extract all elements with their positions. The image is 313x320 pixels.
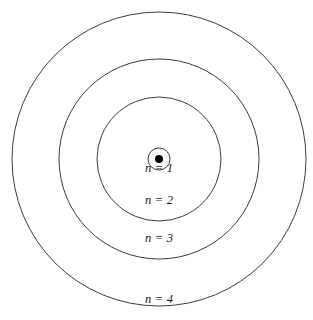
shell-label-n2: n = 2 bbox=[145, 194, 173, 207]
bohr-model-diagram: n = 1 n = 2 n = 3 n = 4 bbox=[0, 0, 313, 320]
concentric-shells-svg bbox=[0, 0, 313, 320]
shell-label-n4: n = 4 bbox=[145, 293, 173, 306]
shell-label-n1: n = 1 bbox=[145, 162, 173, 175]
shell-label-n3: n = 3 bbox=[145, 232, 173, 245]
